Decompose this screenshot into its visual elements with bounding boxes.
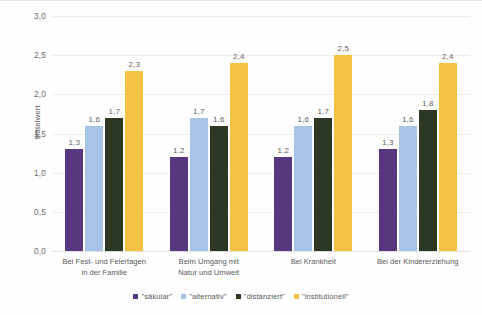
bar-group-bars: 1,21,61,72,5 bbox=[261, 16, 366, 251]
y-tick-label: 1,0 bbox=[8, 168, 46, 177]
bar[interactable]: 2,4 bbox=[439, 63, 457, 251]
x-axis-category-label: Beim Umgang mitNatur und Umwelt bbox=[157, 256, 262, 278]
x-axis-category-label: Bei der Kindererziehung bbox=[366, 256, 471, 278]
bar-value-label: 1,7 bbox=[193, 107, 204, 116]
bar[interactable]: 1,7 bbox=[105, 118, 123, 251]
bar-value-label: 1,3 bbox=[69, 138, 80, 147]
chart-frame-edge bbox=[0, 0, 482, 1]
bar-value-label: 1,7 bbox=[109, 107, 120, 116]
bar-slot: 2,4 bbox=[439, 16, 457, 251]
bar-value-label: 2,3 bbox=[129, 60, 140, 69]
bar-groups: 1,31,61,72,31,21,71,62,41,21,61,72,51,31… bbox=[52, 16, 470, 251]
bar[interactable]: 1,6 bbox=[210, 126, 228, 251]
bar[interactable]: 1,8 bbox=[419, 110, 437, 251]
bar-slot: 2,5 bbox=[334, 16, 352, 251]
category-label-line: Bei der Kindererziehung bbox=[377, 257, 458, 266]
bar[interactable]: 1,2 bbox=[274, 157, 292, 251]
bar[interactable]: 1,6 bbox=[399, 126, 417, 251]
bar-slot: 1,7 bbox=[105, 16, 123, 251]
bar[interactable]: 2,5 bbox=[334, 55, 352, 251]
category-label-line: Bei Krankheit bbox=[291, 257, 336, 266]
legend-swatch-icon bbox=[294, 294, 299, 299]
bar[interactable]: 1,7 bbox=[314, 118, 332, 251]
bar-value-label: 2,4 bbox=[442, 52, 453, 61]
legend-item[interactable]: "institutionell" bbox=[294, 292, 349, 301]
legend-swatch-icon bbox=[236, 294, 241, 299]
bar[interactable]: 1,2 bbox=[170, 157, 188, 251]
bar-slot: 1,2 bbox=[170, 16, 188, 251]
bar-slot: 1,6 bbox=[85, 16, 103, 251]
legend-item[interactable]: "distanziert" bbox=[236, 292, 285, 301]
y-axis-ticks: 3,0 2,5 2,0 1,5 1,0 0,5 0,0 bbox=[8, 16, 46, 251]
bar-value-label: 1,6 bbox=[298, 115, 309, 124]
bar-slot: 1,2 bbox=[274, 16, 292, 251]
legend-label: "säkular" bbox=[141, 292, 172, 301]
bar-group-bars: 1,31,61,82,4 bbox=[366, 16, 471, 251]
category-label-line: Natur und Umwelt bbox=[159, 267, 260, 278]
bar-slot: 1,7 bbox=[190, 16, 208, 251]
legend-label: "institutionell" bbox=[302, 292, 349, 301]
bar-slot: 2,4 bbox=[230, 16, 248, 251]
bar[interactable]: 1,3 bbox=[65, 149, 83, 251]
category-label-line: Beim Umgang mit bbox=[179, 257, 239, 266]
legend-label: "distanziert" bbox=[244, 292, 285, 301]
legend-item[interactable]: "säkular" bbox=[133, 292, 172, 301]
y-tick-label: 1,5 bbox=[8, 129, 46, 138]
category-label-line: in der Familie bbox=[54, 267, 155, 278]
category-label-line: Bei Fest- und Feiertagen bbox=[62, 257, 146, 266]
bar-slot: 1,3 bbox=[65, 16, 83, 251]
bar-group: 1,31,61,82,4 bbox=[366, 16, 471, 251]
bar-group: 1,21,61,72,5 bbox=[261, 16, 366, 251]
y-tick-label: 0,5 bbox=[8, 207, 46, 216]
bar-value-label: 1,6 bbox=[213, 115, 224, 124]
bar[interactable]: 1,6 bbox=[294, 126, 312, 251]
chart-legend: "säkular""alternativ""distanziert""insti… bbox=[0, 292, 482, 301]
y-tick-label: 3,0 bbox=[8, 12, 46, 21]
bar-slot: 1,6 bbox=[210, 16, 228, 251]
bar[interactable]: 1,7 bbox=[190, 118, 208, 251]
bar-value-label: 1,3 bbox=[382, 138, 393, 147]
bar-value-label: 1,2 bbox=[278, 146, 289, 155]
bar-slot: 1,6 bbox=[399, 16, 417, 251]
bar-group-bars: 1,31,61,72,3 bbox=[52, 16, 157, 251]
bar-value-label: 1,7 bbox=[318, 107, 329, 116]
x-axis-category-label: Bei Krankheit bbox=[261, 256, 366, 278]
x-axis-category-labels: Bei Fest- und Feiertagenin der FamilieBe… bbox=[52, 256, 470, 278]
bar-value-label: 1,2 bbox=[173, 146, 184, 155]
legend-swatch-icon bbox=[181, 294, 186, 299]
axis-baseline bbox=[52, 251, 470, 252]
y-tick-label: 0,0 bbox=[8, 247, 46, 256]
bar-value-label: 1,6 bbox=[89, 115, 100, 124]
bar-value-label: 2,5 bbox=[338, 44, 349, 53]
bar[interactable]: 1,3 bbox=[379, 149, 397, 251]
bar[interactable]: 1,6 bbox=[85, 126, 103, 251]
legend-item[interactable]: "alternativ" bbox=[181, 292, 226, 301]
bar-value-label: 1,6 bbox=[402, 115, 413, 124]
y-tick-label: 2,5 bbox=[8, 51, 46, 60]
x-axis-category-label: Bei Fest- und Feiertagenin der Familie bbox=[52, 256, 157, 278]
bar-group-bars: 1,21,71,62,4 bbox=[157, 16, 262, 251]
bar-slot: 1,8 bbox=[419, 16, 437, 251]
bar-group: 1,21,71,62,4 bbox=[157, 16, 262, 251]
y-tick-label: 2,0 bbox=[8, 90, 46, 99]
bar-slot: 1,7 bbox=[314, 16, 332, 251]
bar-chart: Mittelwert 3,0 2,5 2,0 1,5 1,0 0,5 0,0 1… bbox=[0, 0, 482, 315]
bar-value-label: 1,8 bbox=[422, 99, 433, 108]
bar-group: 1,31,61,72,3 bbox=[52, 16, 157, 251]
bar[interactable]: 2,4 bbox=[230, 63, 248, 251]
legend-label: "alternativ" bbox=[189, 292, 226, 301]
bar[interactable]: 2,3 bbox=[125, 71, 143, 251]
bar-slot: 1,6 bbox=[294, 16, 312, 251]
bar-slot: 1,3 bbox=[379, 16, 397, 251]
bar-slot: 2,3 bbox=[125, 16, 143, 251]
legend-swatch-icon bbox=[133, 294, 138, 299]
bar-value-label: 2,4 bbox=[233, 52, 244, 61]
